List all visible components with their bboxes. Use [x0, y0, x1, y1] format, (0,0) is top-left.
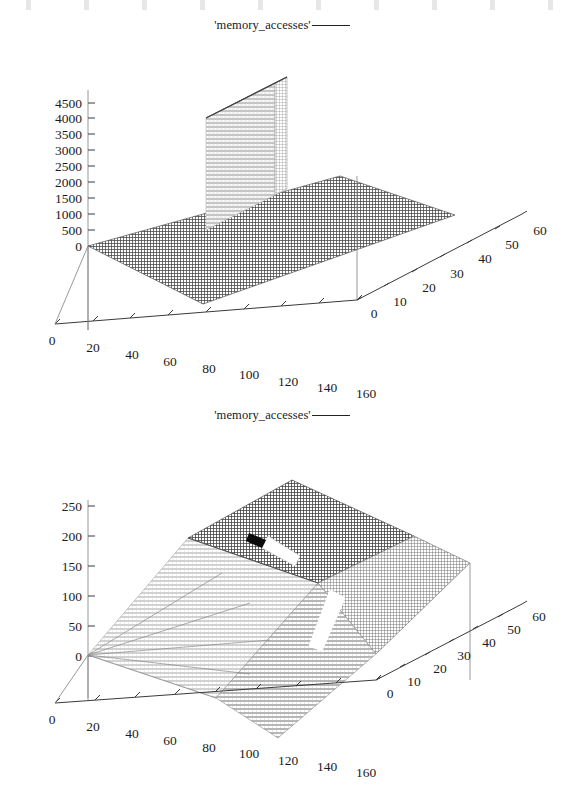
y-tick-label: 10	[393, 294, 407, 309]
z-tick-label: 3500	[55, 127, 82, 142]
x-tick-label: 80	[202, 361, 216, 376]
surface-plot-1: 4500 4000 3500 3000 2500 2000 1500 1000 …	[0, 18, 564, 400]
x-tick-label: 100	[239, 746, 260, 761]
z-tick-label: 3000	[55, 143, 82, 158]
y-tick-label: 10	[407, 674, 421, 689]
y-tick-label: 30	[450, 266, 464, 281]
x-tick-label: 140	[317, 759, 338, 774]
z-axis-ticks-2	[88, 506, 95, 656]
z-tick-label: 2000	[55, 175, 82, 190]
x-tick-label: 20	[86, 340, 100, 355]
y-tick-label: 40	[478, 251, 492, 266]
y-tick-label: 60	[533, 223, 547, 238]
z-tick-label: 150	[62, 559, 83, 574]
z-origin-drop-line-1	[55, 246, 88, 324]
z-tick-label: 4000	[55, 111, 82, 126]
y-tick-label: 0	[387, 686, 394, 701]
scan-artifact-strip	[0, 0, 564, 10]
x-tick-label: 40	[125, 347, 139, 362]
z-tick-label: 1500	[55, 191, 82, 206]
z-tick-label: 0	[75, 649, 82, 664]
x-tick-label: 40	[125, 726, 139, 741]
y-axis-tick-labels-1: 0 10 20 30 40 50 60	[371, 223, 547, 321]
z-tick-label: 2500	[55, 159, 82, 174]
spike-wall-side-face-1	[275, 77, 287, 195]
z-tick-label: 100	[62, 589, 83, 604]
figure-memory-accesses-spike: 'memory_accesses'	[0, 18, 564, 400]
y-tick-label: 60	[532, 609, 546, 624]
x-tick-label: 0	[49, 333, 56, 348]
y-tick-label: 0	[371, 306, 378, 321]
x-axis-tick-labels-2: 0 20 40 60 80 100 120 140 160	[49, 712, 377, 780]
z-tick-label: 4500	[55, 96, 82, 111]
y-tick-label: 40	[482, 635, 496, 650]
y-tick-label: 30	[457, 648, 471, 663]
x-tick-label: 120	[278, 374, 299, 389]
surface-plot-2: 250 200 150 100 50 0	[0, 408, 564, 794]
y-tick-label: 50	[507, 622, 521, 637]
z-axis-ticks-1	[88, 103, 95, 246]
x-tick-label: 160	[356, 765, 377, 780]
z-axis-tick-labels-2: 250 200 150 100 50 0	[62, 499, 83, 664]
x-tick-label: 60	[163, 354, 177, 369]
x-tick-label: 20	[86, 719, 100, 734]
z-axis-tick-labels-1: 4500 4000 3500 3000 2500 2000 1500 1000 …	[55, 96, 82, 254]
x-tick-label: 120	[278, 753, 299, 768]
z-tick-label: 200	[62, 529, 83, 544]
z-tick-label: 1000	[55, 207, 82, 222]
x-tick-label: 100	[239, 367, 260, 382]
x-tick-label: 140	[317, 380, 338, 395]
x-tick-label: 0	[49, 712, 56, 727]
y-tick-label: 20	[433, 661, 447, 676]
y-tick-label: 20	[422, 280, 436, 295]
z-origin-drop-line-2	[55, 655, 88, 703]
x-tick-label: 80	[202, 740, 216, 755]
z-tick-label: 250	[62, 499, 83, 514]
x-tick-label: 160	[356, 386, 377, 400]
z-tick-label: 500	[62, 223, 83, 238]
figure-memory-accesses-ridge: 'memory_accesses'	[0, 408, 564, 794]
z-tick-label: 0	[75, 239, 82, 254]
x-axis-tick-labels-1: 0 20 40 60 80 100 120 140 160	[49, 333, 377, 400]
y-tick-label: 50	[505, 237, 519, 252]
z-tick-label: 50	[69, 619, 83, 634]
x-tick-label: 60	[163, 733, 177, 748]
y-axis-tick-labels-2: 0 10 20 30 40 50 60	[387, 609, 546, 701]
